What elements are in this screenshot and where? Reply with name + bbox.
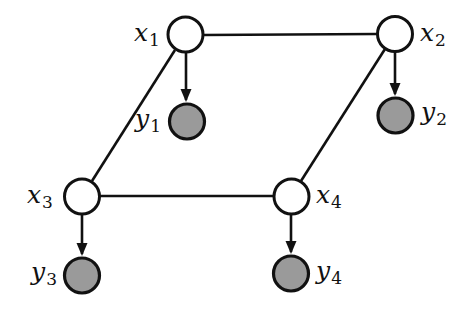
node-x3 xyxy=(65,179,100,214)
label-y3-var: y xyxy=(31,257,45,286)
node-x4 xyxy=(274,179,309,214)
label-x3: x3 xyxy=(27,182,53,207)
arrow-x4-y4 xyxy=(286,214,297,254)
node-x2 xyxy=(378,17,413,52)
label-y4-var: y xyxy=(316,256,330,285)
node-y3 xyxy=(65,258,100,293)
label-y1-sub: 1 xyxy=(150,116,161,136)
label-x1-var: x xyxy=(134,18,148,47)
label-y1: y1 xyxy=(135,106,161,131)
edge-x2-x4 xyxy=(301,49,385,181)
label-x4-sub: 4 xyxy=(331,192,342,212)
node-x1 xyxy=(168,17,203,52)
edge-x1-x2 xyxy=(203,34,377,35)
arrow-x1-y1 xyxy=(181,53,192,102)
node-y1 xyxy=(170,104,205,139)
label-x4-var: x xyxy=(316,180,330,209)
label-x3-var: x xyxy=(27,180,41,209)
label-x4: x4 xyxy=(316,182,342,207)
label-y2-sub: 2 xyxy=(436,109,447,129)
label-x1: x1 xyxy=(134,20,160,45)
label-x2-var: x xyxy=(420,18,434,47)
label-x2: x2 xyxy=(420,20,446,45)
edge-x1-x3 xyxy=(92,50,175,181)
label-x2-sub: 2 xyxy=(435,30,446,50)
arrow-x3-y3 xyxy=(77,214,88,256)
label-x1-sub: 1 xyxy=(149,30,160,50)
label-y4: y4 xyxy=(316,258,342,283)
label-y2-var: y xyxy=(421,97,435,126)
label-y2: y2 xyxy=(421,99,447,124)
label-x3-sub: 3 xyxy=(42,192,53,212)
arrow-x2-y2 xyxy=(390,52,401,96)
label-y3: y3 xyxy=(31,259,57,284)
label-y4-sub: 4 xyxy=(331,268,342,288)
graphical-model-canvas xyxy=(0,0,472,316)
label-y3-sub: 3 xyxy=(46,269,57,289)
node-y2 xyxy=(378,98,413,133)
label-y1-var: y xyxy=(135,104,149,133)
node-y4 xyxy=(274,256,309,291)
